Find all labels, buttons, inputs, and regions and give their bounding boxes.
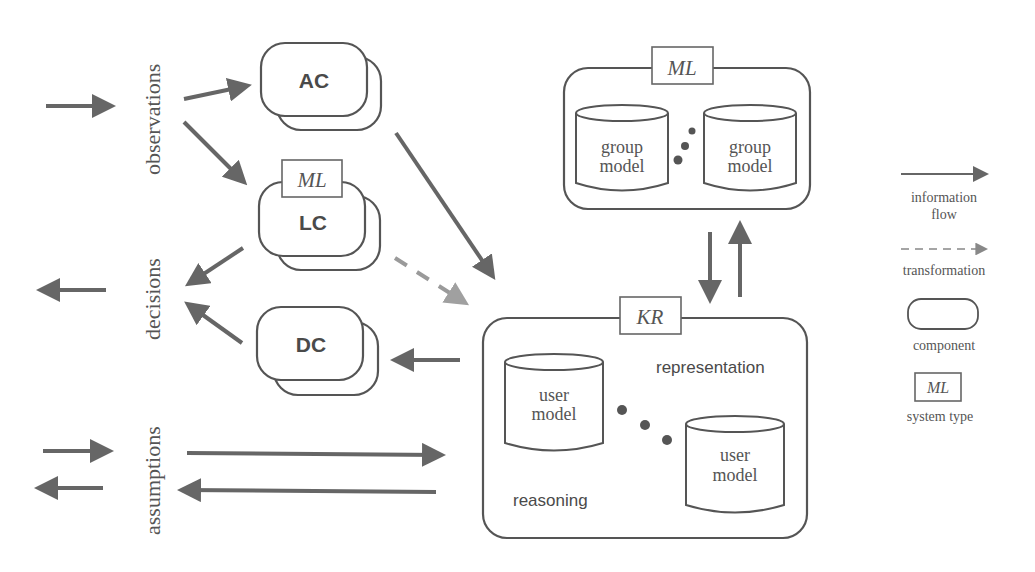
group-model-system: ML group model group model [564,47,810,209]
assumptions-label: assumptions [140,426,165,535]
user-model-2-line2: model [713,465,758,485]
lc-label: LC [299,211,327,234]
legend-information-flow-line1: information [911,190,977,205]
user-model-cylinder-1: user model [505,354,603,451]
dc-label: DC [296,333,326,356]
lc-to-kr-transformation-arrow [395,258,464,302]
observations-to-lc-arrow [184,122,243,181]
user-model-cylinder-2: user model [686,416,784,513]
group-model-1-line1: group [601,137,643,157]
architecture-diagram: observations decisions assumptions AC ML… [0,0,1035,572]
group-model-2-line2: model [728,156,773,176]
decisions-label: decisions [140,258,165,340]
ac-label: AC [299,69,329,92]
group-model-2-line1: group [729,137,771,157]
user-model-1-line2: model [532,404,577,424]
user-model-1-line1: user [539,385,569,405]
component-dc: DC [257,307,378,395]
observations-label: observations [140,64,165,175]
user-model-2-line1: user [720,445,750,465]
lc-system-type-text: ML [296,168,326,192]
kr-to-assumptions-arrow [183,490,436,492]
assumptions-to-kr-arrow [187,453,440,455]
group-model-1-line2: model [600,156,645,176]
legend-system-type-tag-text: ML [926,379,949,396]
legend: information flow transformation componen… [901,174,985,424]
legend-system-type-label: system type [907,409,974,424]
group-model-cylinder-2: group model [704,105,796,191]
legend-component-label: component [913,338,975,353]
reasoning-label: reasoning [513,491,588,510]
component-lc: ML LC [259,160,380,270]
legend-information-flow-line2: flow [931,207,958,222]
observations-to-ac-arrow [184,86,246,99]
lc-to-decisions-arrow [190,248,243,283]
group-system-type-text: ML [666,56,696,80]
component-ac: AC [261,43,381,130]
representation-label: representation [656,358,765,377]
dc-to-decisions-arrow [189,305,242,343]
group-model-cylinder-1: group model [576,105,668,191]
ac-to-kr-arrow [396,133,492,275]
kr-system: KR representation reasoning user model u… [483,297,807,538]
kr-system-type-text: KR [636,305,664,329]
legend-component-shape [908,299,978,329]
legend-transformation-label: transformation [903,263,985,278]
